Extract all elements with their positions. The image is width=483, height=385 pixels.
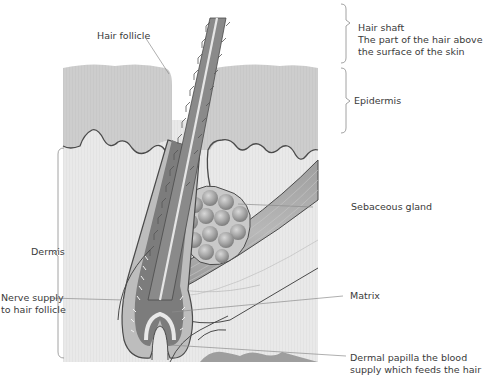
- label-matrix: Matrix: [350, 290, 380, 302]
- label-dermal-papilla-1: Dermal papilla the blood: [350, 352, 481, 364]
- label-nerve-supply-1: Nerve supply: [1, 292, 66, 304]
- label-sebaceous-gland: Sebaceous gland: [351, 201, 432, 213]
- label-epidermis: Epidermis: [354, 95, 401, 107]
- label-dermal-papilla-2: supply which feeds the hair: [350, 364, 481, 376]
- label-hair-shaft-title: Hair shaft: [358, 22, 483, 34]
- label-nerve-supply: Nerve supply to hair follicle: [1, 292, 66, 316]
- label-dermis: Dermis: [31, 246, 65, 258]
- label-dermal-papilla: Dermal papilla the blood supply which fe…: [350, 352, 481, 376]
- label-nerve-supply-2: to hair follicle: [1, 304, 66, 316]
- label-hair-shaft-desc-1: The part of the hair above: [358, 34, 483, 46]
- label-hair-shaft-desc-2: the surface of the skin: [358, 46, 483, 58]
- label-hair-follicle: Hair follicle: [97, 30, 150, 42]
- label-hair-shaft: Hair shaft The part of the hair above th…: [358, 22, 483, 58]
